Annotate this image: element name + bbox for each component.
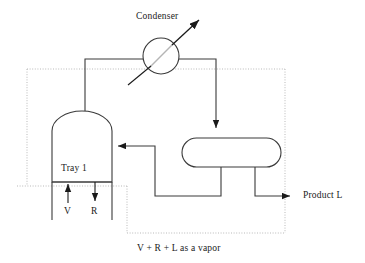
diagram-caption: V + R + L as a vapor — [137, 243, 221, 253]
diagram-canvas: Condenser Tray 1 V R Product L V + R + L… — [0, 0, 365, 263]
coolant-out-arrow — [172, 20, 199, 45]
overhead-vapor-line — [85, 59, 144, 111]
tray-label: Tray 1 — [61, 163, 87, 173]
condensate-line — [179, 59, 216, 128]
reflux-drum — [182, 138, 281, 167]
column-lower-walls — [52, 182, 112, 220]
vapor-stream-label: V — [64, 206, 71, 216]
product-label: Product L — [303, 190, 343, 200]
condenser-label: Condenser — [136, 11, 178, 21]
process-flow-diagram — [0, 0, 365, 263]
reflux-stream-label: R — [91, 206, 98, 216]
